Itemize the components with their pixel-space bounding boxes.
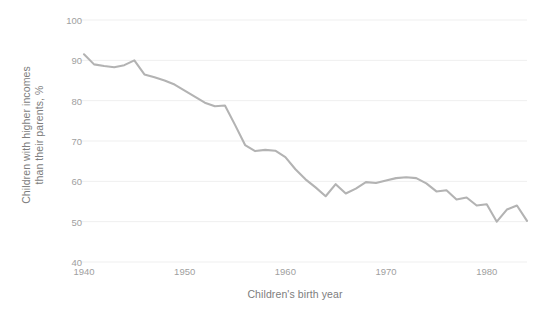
data-series-line bbox=[84, 54, 527, 221]
y-axis-tick-label: 90 bbox=[56, 55, 82, 66]
chart-container: Children with higher incomes than their … bbox=[0, 0, 536, 323]
x-axis-title: Children's birth year bbox=[60, 288, 530, 300]
x-axis-tick-label: 1950 bbox=[165, 266, 205, 277]
x-axis-tick-label: 1940 bbox=[64, 266, 104, 277]
x-axis-title-text: Children's birth year bbox=[247, 288, 342, 300]
y-axis-tick-label: 50 bbox=[56, 216, 82, 227]
x-axis-tick-label: 1960 bbox=[265, 266, 305, 277]
y-axis-tick-label: 70 bbox=[56, 136, 82, 147]
y-axis-tick-label: 80 bbox=[56, 95, 82, 106]
x-axis-tick-label: 1970 bbox=[366, 266, 406, 277]
gridlines bbox=[80, 20, 527, 262]
y-axis-tick-label: 60 bbox=[56, 176, 82, 187]
y-axis-tick-label: 100 bbox=[56, 15, 82, 26]
x-axis-tick-label: 1980 bbox=[467, 266, 507, 277]
